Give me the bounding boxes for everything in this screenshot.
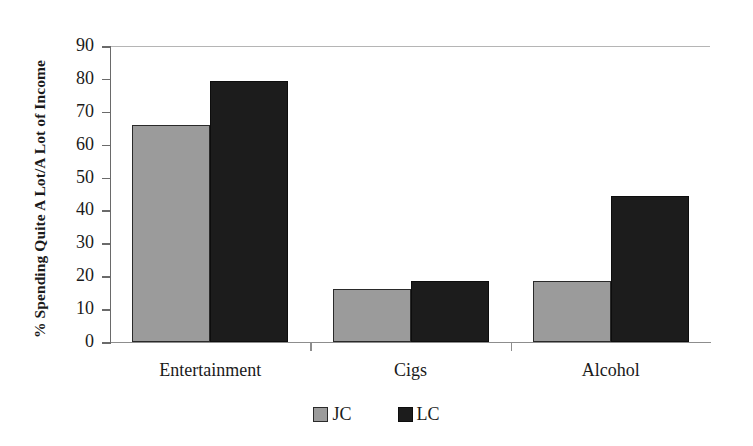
y-axis-tick-label: 80 (76, 67, 94, 89)
legend-label-jc: JC (332, 404, 351, 424)
y-axis-title: % Spending Quite A Lot/A Lot of Income (27, 34, 53, 364)
y-axis-tick: 10 (0, 309, 110, 310)
y-axis-tick: 50 (0, 178, 110, 179)
y-axis-tick: 20 (0, 276, 110, 277)
legend-item-lc: LC (398, 404, 440, 424)
legend-item-jc: JC (313, 404, 351, 424)
y-axis-tick: 80 (0, 79, 110, 80)
bar-lc-cigs (411, 281, 489, 342)
chart-legend: JCLC (0, 404, 753, 424)
bar-lc-entertainment (210, 81, 288, 342)
y-axis-tick-label: 70 (76, 100, 94, 122)
bar-chart: % Spending Quite A Lot/A Lot of Income 9… (0, 0, 753, 446)
legend-label-lc: LC (417, 404, 440, 424)
x-axis-tick-mark (310, 342, 312, 351)
y-axis-tick-label: 20 (76, 264, 94, 286)
y-axis-tick-label: 40 (76, 198, 94, 220)
legend-swatch-jc (313, 407, 328, 422)
y-axis-tick-label: 50 (76, 166, 94, 188)
y-axis-tick-label: 60 (76, 133, 94, 155)
y-axis-tick: 0 (0, 342, 110, 343)
y-axis-tick-label: 30 (76, 231, 94, 253)
y-axis-tick: 90 (0, 46, 110, 47)
y-axis-tick: 60 (0, 145, 110, 146)
y-axis-tick-mark (102, 342, 111, 344)
bar-jc-alcohol (533, 281, 611, 342)
bar-lc-alcohol (611, 196, 689, 342)
y-axis-tick-label: 90 (76, 34, 94, 56)
y-axis-tick-label: 10 (76, 297, 94, 319)
y-axis-tick: 70 (0, 112, 110, 113)
y-axis-tick: 30 (0, 243, 110, 244)
bar-jc-entertainment (132, 125, 210, 342)
x-axis-label-alcohol: Alcohol (511, 357, 711, 383)
bar-jc-cigs (333, 289, 411, 342)
y-axis-tick: 40 (0, 210, 110, 211)
legend-swatch-lc (398, 407, 413, 422)
y-axis-tick-label: 0 (85, 330, 94, 352)
x-axis-label-cigs: Cigs (310, 357, 510, 383)
x-axis-tick-mark (511, 342, 513, 351)
x-axis-line (110, 342, 711, 343)
x-axis-label-entertainment: Entertainment (110, 357, 310, 383)
bars-layer (110, 46, 711, 342)
